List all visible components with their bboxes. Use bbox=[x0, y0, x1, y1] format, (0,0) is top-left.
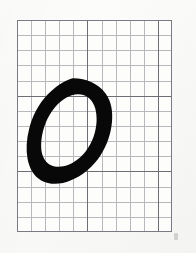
grid-major-lines bbox=[17, 20, 172, 232]
caption-region bbox=[0, 239, 196, 253]
graph-paper-grid bbox=[17, 20, 172, 232]
scanned-page bbox=[0, 0, 196, 253]
